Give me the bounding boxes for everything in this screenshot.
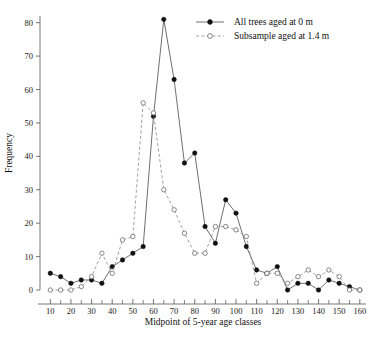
data-point [162, 17, 166, 21]
x-tick-label: 70 [170, 306, 179, 316]
data-point [223, 224, 227, 228]
x-tick-label: 20 [67, 306, 76, 316]
data-point [131, 251, 135, 255]
data-point [285, 288, 289, 292]
data-point [265, 271, 269, 275]
data-point [337, 281, 341, 285]
legend-marker-2 [208, 34, 213, 39]
series-2 [48, 101, 362, 293]
y-axis-title: Frequency [4, 133, 14, 173]
data-point [131, 234, 135, 238]
data-point [182, 231, 186, 235]
y-tick-label: 20 [25, 218, 34, 228]
data-point [213, 241, 217, 245]
data-point [100, 281, 104, 285]
data-point [223, 198, 227, 202]
data-point [182, 161, 186, 165]
series-line [50, 103, 359, 290]
data-point [172, 208, 176, 212]
data-point [244, 234, 248, 238]
data-point [110, 271, 114, 275]
y-tick-label: 70 [25, 51, 34, 61]
data-point [296, 281, 300, 285]
data-point [254, 281, 258, 285]
x-tick-label: 80 [190, 306, 199, 316]
data-point [58, 288, 62, 292]
x-axis-ticks: 102030405060708090100110120130140150160 [46, 299, 366, 316]
data-point [89, 274, 93, 278]
axes-group [38, 16, 366, 304]
x-tick-label: 100 [230, 306, 243, 316]
y-tick-label: 30 [25, 185, 34, 195]
data-point [275, 271, 279, 275]
data-point [203, 251, 207, 255]
x-tick-label: 30 [87, 306, 96, 316]
data-point [203, 224, 207, 228]
data-point [172, 77, 176, 81]
x-axis-title: Midpoint of 5-year age classes [145, 317, 262, 327]
x-tick-label: 90 [211, 306, 220, 316]
data-point [234, 211, 238, 215]
y-tick-label: 80 [25, 18, 34, 28]
y-tick-label: 50 [25, 118, 34, 128]
x-tick-label: 150 [333, 306, 346, 316]
frequency-age-class-chart: 01020304050607080 1020304050607080901001… [0, 0, 375, 337]
data-point [162, 188, 166, 192]
data-point [141, 244, 145, 248]
y-tick-label: 0 [29, 285, 33, 295]
x-tick-label: 120 [271, 306, 284, 316]
data-point [234, 228, 238, 232]
chart-legend: All trees aged at 0 mSubsample aged at 1… [196, 17, 330, 41]
x-tick-label: 130 [292, 306, 305, 316]
data-series-layer [48, 17, 362, 292]
data-point [100, 251, 104, 255]
y-tick-label: 40 [25, 151, 34, 161]
x-tick-label: 40 [108, 306, 117, 316]
chart-canvas: 01020304050607080 1020304050607080901001… [0, 0, 375, 337]
data-point [193, 151, 197, 155]
data-point [327, 268, 331, 272]
x-tick-label: 10 [46, 306, 55, 316]
data-point [316, 288, 320, 292]
data-point [120, 238, 124, 242]
data-point [48, 288, 52, 292]
data-point [347, 288, 351, 292]
data-point [358, 288, 362, 292]
data-point [69, 281, 73, 285]
data-point [58, 274, 62, 278]
legend-label-2: Subsample aged at 1.4 m [234, 31, 330, 41]
data-point [254, 268, 258, 272]
data-point [151, 111, 155, 115]
legend-marker-1 [208, 20, 213, 25]
data-point [213, 224, 217, 228]
data-point [316, 274, 320, 278]
data-point [306, 281, 310, 285]
y-tick-label: 10 [25, 252, 34, 262]
data-point [120, 258, 124, 262]
y-axis-ticks: 01020304050607080 [25, 18, 41, 295]
data-point [327, 278, 331, 282]
data-point [244, 244, 248, 248]
data-point [141, 101, 145, 105]
x-tick-label: 140 [312, 306, 325, 316]
series-line [50, 19, 359, 290]
data-point [306, 268, 310, 272]
data-point [337, 274, 341, 278]
x-tick-label: 60 [149, 306, 158, 316]
y-tick-label: 60 [25, 85, 34, 95]
legend-label-1: All trees aged at 0 m [234, 17, 313, 27]
data-point [296, 274, 300, 278]
data-point [193, 251, 197, 255]
x-tick-label: 160 [353, 306, 366, 316]
data-point [275, 264, 279, 268]
data-point [285, 281, 289, 285]
x-tick-label: 110 [250, 306, 262, 316]
data-point [79, 278, 83, 282]
data-point [48, 271, 52, 275]
data-point [79, 284, 83, 288]
data-point [69, 288, 73, 292]
x-tick-label: 50 [129, 306, 138, 316]
